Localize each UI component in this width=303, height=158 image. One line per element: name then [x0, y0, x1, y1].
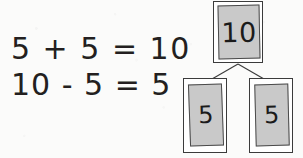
equation-group: 5 + 5 = 10 10 - 5 = 5: [11, 31, 161, 103]
bond-card-part-left: 5: [188, 83, 224, 146]
equation-subtraction: 10 - 5 = 5: [11, 67, 161, 103]
equation-addition: 5 + 5 = 10: [11, 31, 161, 67]
number-bond-diagram: 10 5 5: [175, 0, 303, 158]
worksheet-page: 5 + 5 = 10 10 - 5 = 5 10 5 5: [0, 0, 303, 158]
bond-node-whole: 10: [213, 1, 263, 63]
bond-value-part-right: 5: [264, 103, 280, 127]
bond-value-whole: 10: [221, 18, 257, 46]
bond-card-whole: 10: [217, 5, 260, 60]
connector-whole-to-part-left: [212, 64, 238, 79]
bond-value-part-left: 5: [198, 103, 215, 128]
connector-whole-to-part-right: [238, 64, 264, 79]
bond-card-part-right: 5: [254, 84, 290, 147]
bond-node-part-left: 5: [183, 78, 227, 153]
bond-node-part-right: 5: [249, 78, 293, 153]
